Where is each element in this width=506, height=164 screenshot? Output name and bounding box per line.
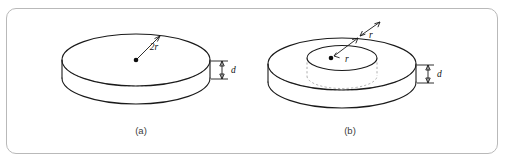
ring-b-ring-width-label: r [369, 30, 373, 40]
figure-container: 2r d (a) [0, 0, 506, 164]
ring-b-bottom-front-arc [268, 82, 416, 108]
panel-a-solid-disk: 2r d (a) [62, 34, 236, 136]
disk-a-hidden-back-arc [62, 60, 210, 86]
ring-b-thickness-label: d [437, 69, 442, 79]
disk-a-thickness-label: d [231, 65, 236, 75]
disk-a-center-dot [134, 58, 139, 63]
diagram-canvas: 2r d (a) [0, 0, 506, 164]
ring-b-inner-top-ellipse [307, 46, 377, 71]
panel-a-caption: (a) [135, 125, 147, 136]
disk-a-diameter-label: 2r [150, 42, 159, 52]
panel-b-annular-disk: r r d (b) [268, 22, 442, 136]
ring-b-hidden-outer-back-arc [268, 64, 416, 90]
disk-a-bottom-front-arc [62, 78, 210, 104]
ring-b-hole-bottom-hidden-arc [307, 76, 377, 89]
ring-b-ring-width-arrowhead-back [360, 31, 365, 36]
panel-b-caption: (b) [344, 125, 356, 136]
ring-b-center-dot [329, 56, 334, 61]
ring-b-inner-radius-label: r [345, 54, 349, 64]
